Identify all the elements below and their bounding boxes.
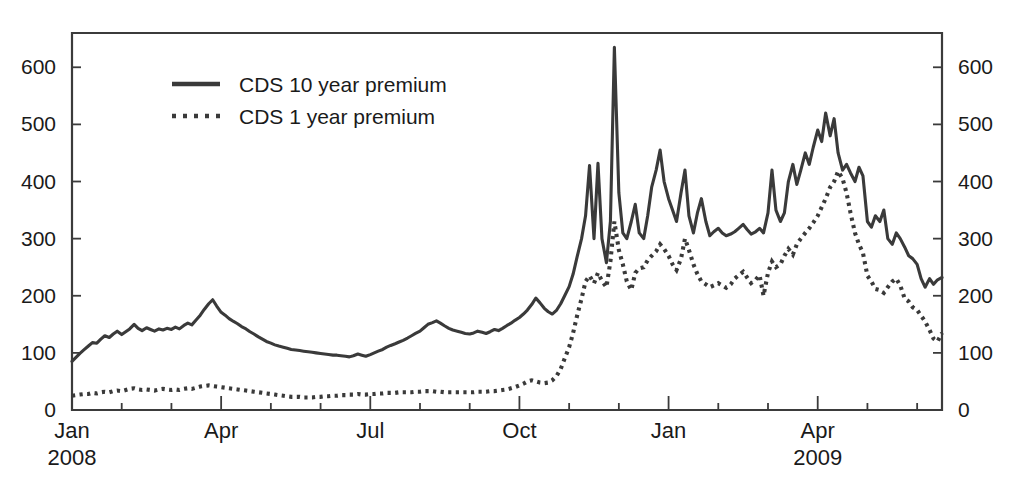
x-axis-year-label: 2008 — [48, 445, 97, 470]
y-axis-right-label: 100 — [958, 341, 993, 364]
x-axis-month-label: Oct — [502, 418, 536, 443]
y-axis-left-label: 600 — [21, 55, 56, 78]
x-axis-month-label: Jan — [54, 418, 89, 443]
y-axis-right-label: 200 — [958, 284, 993, 307]
x-axis-month-label: Apr — [801, 418, 835, 443]
y-axis-left-label: 100 — [21, 341, 56, 364]
y-axis-right-label: 0 — [958, 398, 970, 421]
legend-label: CDS 10 year premium — [239, 73, 447, 96]
y-axis-right-label: 400 — [958, 170, 993, 193]
y-axis-right-label: 300 — [958, 227, 993, 250]
y-axis-left-label: 200 — [21, 284, 56, 307]
y-axis-right-label: 500 — [958, 112, 993, 135]
x-axis-year-label: 2009 — [793, 445, 842, 470]
x-axis-month-label: Apr — [204, 418, 238, 443]
y-axis-left-label: 300 — [21, 227, 56, 250]
y-axis-left-label: 400 — [21, 170, 56, 193]
x-axis-month-label: Jan — [651, 418, 686, 443]
x-axis-month-label: Jul — [356, 418, 384, 443]
chart-background — [0, 0, 1016, 481]
y-axis-right-label: 600 — [958, 55, 993, 78]
y-axis-left-label: 500 — [21, 112, 56, 135]
cds-premium-line-chart: 0100200300400500600 0100200300400500600 … — [0, 0, 1016, 481]
legend-label: CDS 1 year premium — [239, 105, 435, 128]
chart-figure: 0100200300400500600 0100200300400500600 … — [0, 0, 1016, 481]
